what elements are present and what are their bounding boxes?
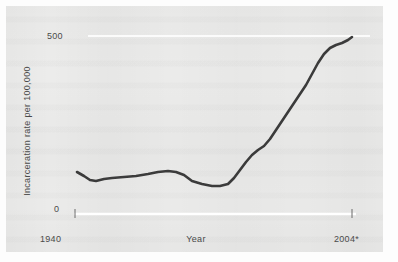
data-series-incarceration-rate [77,37,352,186]
y-axis-max-label: 500 [47,31,63,41]
y-axis-min-label: 0 [54,204,59,214]
figure-page: 500 0 Incarceration rate per 100,000 194… [0,0,398,262]
x-axis-start-label: 1940 [40,234,61,244]
chart-plot-area: 500 0 Incarceration rate per 100,000 194… [0,0,398,262]
x-axis-title: Year [186,234,205,244]
x-axis-end-label: 2004* [334,234,359,244]
y-axis-title: Incarceration rate per 100,000 [22,46,32,216]
